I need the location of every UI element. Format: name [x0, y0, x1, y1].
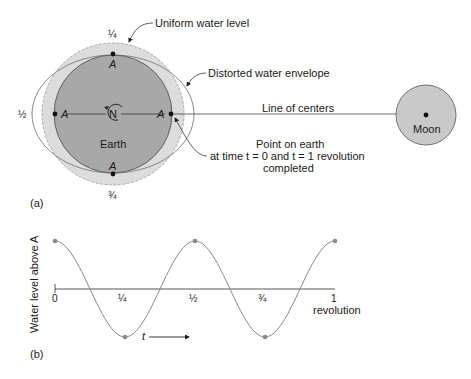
panel-a-label: (a)	[30, 197, 43, 209]
label-quarter: ¼	[108, 29, 117, 40]
label-three-quarter: ¾	[108, 190, 117, 201]
y-axis-label: Water level above A	[28, 235, 40, 333]
completed-label: completed	[263, 162, 314, 174]
tick-0: 0	[52, 293, 58, 304]
label-a-bottom: A	[108, 160, 116, 172]
point-on-earth-label: Point on earth	[256, 138, 325, 150]
point-a-bottom	[111, 172, 116, 177]
label-a-top: A	[108, 58, 116, 70]
tick-quarter: ¼	[118, 293, 127, 304]
label-half: ½	[18, 109, 27, 120]
panel-b: 0 ¼ ½ ¾ 1 revolution Water level above A…	[28, 235, 361, 360]
t-label: t	[142, 330, 146, 342]
distorted-envelope-label: Distorted water envelope	[208, 67, 330, 79]
uniform-water-level-label: Uniform water level	[155, 17, 249, 29]
panel-a: A A A A N Earth ¼ ½ ¾ Uniform water leve…	[18, 17, 456, 209]
point-a-top	[111, 52, 116, 57]
line-of-centers-label: Line of centers	[262, 102, 335, 114]
earth-label: Earth	[100, 138, 126, 150]
tick-1: 1	[331, 293, 337, 304]
point-a-left	[53, 112, 58, 117]
revolution-label: revolution	[313, 304, 361, 316]
point-a-right	[169, 112, 174, 117]
tide-diagram: A A A A N Earth ¼ ½ ¾ Uniform water leve…	[0, 0, 471, 379]
time-label: at time t = 0 and t = 1 revolution	[210, 150, 365, 162]
panel-b-label: (b)	[30, 348, 43, 360]
moon-label: Moon	[413, 123, 441, 135]
tick-three-quarter: ¾	[258, 293, 267, 304]
tick-half: ½	[189, 293, 198, 304]
label-a-left: A	[60, 108, 68, 120]
north-pole-label: N	[109, 108, 117, 120]
label-a-right: A	[156, 108, 164, 120]
